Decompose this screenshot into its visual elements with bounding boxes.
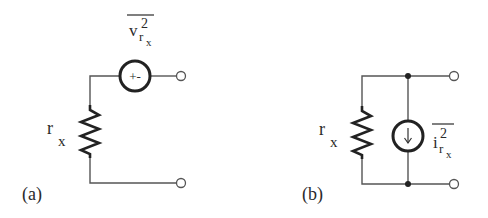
wire-b-bottom (362, 159, 449, 184)
terminal-b-top (450, 72, 459, 81)
svg-text:i 2 r: i 2 r x (433, 124, 452, 160)
terminal-b-bottom (450, 180, 459, 189)
voltage-source-polarity: +- (129, 69, 141, 84)
junction-b-bottom (405, 181, 411, 187)
current-source-label: i 2 r x (432, 124, 454, 160)
panel-b: r x i 2 r x (b) (302, 72, 459, 206)
noise-model-diagram: +- r x v 2 r x (a) (0, 0, 488, 218)
wire-a-bottom (90, 158, 176, 183)
wire-a-top (90, 76, 120, 105)
panel-a: +- r x v 2 r x (a) (22, 14, 186, 205)
resistor-a-label: r x (47, 118, 66, 149)
svg-text:v 2 r: v 2 r x (129, 14, 152, 48)
resistor-b-label: r x (319, 119, 338, 150)
wire-b-top (362, 76, 449, 106)
panel-b-tag: (b) (302, 184, 323, 205)
resistor-a-icon (81, 105, 99, 158)
panel-a-tag: (a) (22, 184, 42, 205)
terminal-a-top (177, 72, 186, 81)
voltage-source-label: v 2 r x (127, 14, 154, 48)
terminal-a-bottom (177, 179, 186, 188)
resistor-b-icon (353, 106, 371, 159)
junction-b-top (405, 73, 411, 79)
